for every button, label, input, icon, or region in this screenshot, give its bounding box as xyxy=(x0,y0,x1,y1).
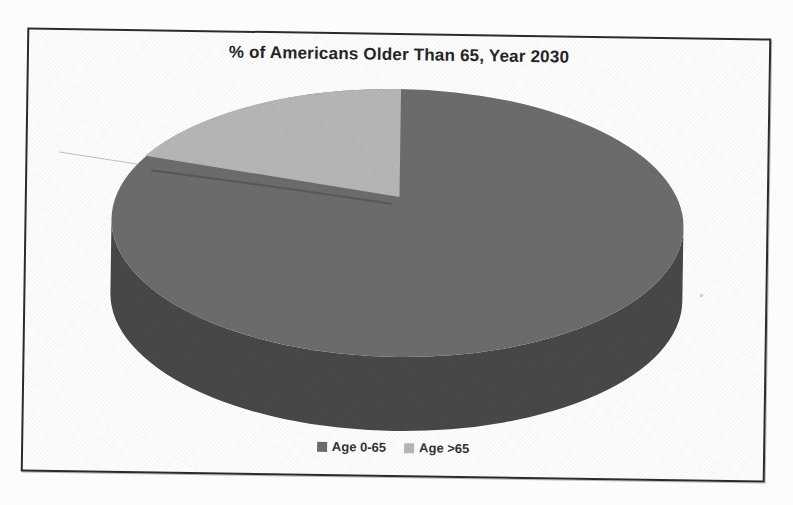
scan-artifact-speck xyxy=(699,294,703,298)
legend-swatch-icon xyxy=(404,443,414,453)
legend-swatch-icon xyxy=(317,441,327,451)
chart-frame: % of Americans Older Than 65, Year 2030 … xyxy=(21,28,772,483)
pie-chart xyxy=(23,30,774,485)
legend-item-age-65: Age >65 xyxy=(404,440,469,456)
legend-label: Age 0-65 xyxy=(332,439,386,455)
scanned-page: { "page": { "background_color": "#fcfcfc… xyxy=(0,0,793,505)
legend-label: Age >65 xyxy=(419,440,469,456)
scan-artifact-line xyxy=(59,152,138,164)
legend-item-age-0-65: Age 0-65 xyxy=(317,439,386,455)
